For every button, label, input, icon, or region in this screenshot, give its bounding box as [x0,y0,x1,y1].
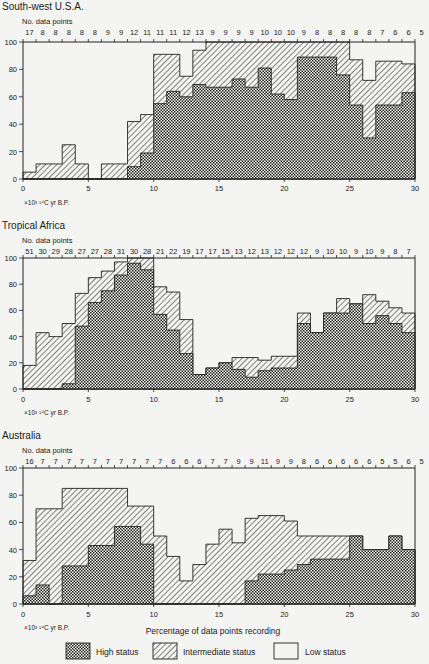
data-point-count: 6 [171,457,175,466]
data-point-count: 21 [156,247,164,256]
y-tick-label: 100 [4,254,17,263]
data-point-count: 5 [380,457,384,466]
data-point-count: 28 [104,247,112,256]
data-point-count: 19 [182,247,190,256]
legend-swatch-low [274,643,298,659]
data-point-count: 9 [237,28,241,37]
data-point-count: 7 [145,457,149,466]
data-point-count: 9 [250,457,254,466]
data-point-count: 7 [106,457,110,466]
y-tick-label: 20 [9,359,17,368]
time-unit-label: ×10³ ¹⁴C yr B.P. [24,199,69,207]
data-point-count: 6 [315,457,319,466]
data-point-count: 15 [221,247,229,256]
data-point-count: 17 [25,28,33,37]
data-point-count: 12 [300,247,308,256]
chart-title: Australia [2,430,41,441]
y-tick-label: 20 [9,573,17,582]
high-status-area [23,263,415,389]
x-tick-label: 15 [215,184,223,193]
data-point-count: 13 [195,28,203,37]
y-tick-label: 80 [9,280,17,289]
counts-label: No. data points [22,236,73,245]
x-axis-title: Percentage of data points recording [146,626,281,636]
data-point-count: 51 [25,247,33,256]
data-point-count: 30 [130,247,138,256]
data-point-count: 6 [406,457,410,466]
x-tick-label: 0 [21,610,25,619]
x-tick-label: 10 [149,610,157,619]
chart-panel-australia: AustraliaNo. data points1677777777776667… [2,430,424,632]
data-point-count: 10 [287,28,295,37]
data-point-count: 7 [93,457,97,466]
x-tick-label: 30 [411,184,419,193]
y-tick-label: 40 [9,333,17,342]
data-point-count: 8 [41,28,45,37]
y-tick-label: 100 [4,464,17,473]
data-point-count: 6 [354,457,358,466]
y-tick-label: 60 [9,518,17,527]
legend-swatch-intermediate [153,643,177,659]
data-point-count: 27 [91,247,99,256]
x-tick-label: 5 [86,610,90,619]
data-point-count: 7 [67,457,71,466]
data-point-count: 6 [328,457,332,466]
data-point-count: 8 [80,28,84,37]
x-tick-label: 0 [21,395,25,404]
data-point-count: 10 [365,247,373,256]
data-point-count: 13 [234,247,242,256]
data-point-count: 9 [223,28,227,37]
x-tick-label: 15 [215,610,223,619]
legend-swatch-high [66,643,90,659]
data-point-count: 7 [406,247,410,256]
data-point-count: 8 [328,28,332,37]
data-point-count: 10 [326,247,334,256]
data-point-count: 7 [158,457,162,466]
data-point-count: 7 [210,457,214,466]
x-tick-label: 0 [21,184,25,193]
data-point-count: 5 [419,457,423,466]
legend-label-low: Low status [305,647,346,657]
data-point-count: 9 [380,247,384,256]
data-point-count: 9 [276,457,280,466]
x-tick-label: 10 [149,395,157,404]
legend-label-high: High status [96,647,139,657]
x-tick-label: 20 [280,395,288,404]
data-point-count: 10 [261,28,269,37]
data-point-count: 6 [341,457,345,466]
data-point-count: 17 [208,247,216,256]
data-point-count: 8 [67,28,71,37]
data-point-count: 29 [51,247,59,256]
time-unit-label: ×10³ ¹⁴C yr B.P. [24,624,69,632]
data-point-count: 9 [250,28,254,37]
y-tick-label: 80 [9,491,17,500]
data-point-count: 8 [302,457,306,466]
data-point-count: 22 [169,247,177,256]
data-point-count: 28 [143,247,151,256]
data-point-count: 9 [210,28,214,37]
data-point-count: 8 [315,28,319,37]
data-point-count: 12 [274,247,282,256]
data-point-count: 17 [195,247,203,256]
x-tick-label: 25 [345,610,353,619]
data-point-count: 16 [25,457,33,466]
data-point-count: 12 [287,247,295,256]
y-tick-label: 80 [9,65,17,74]
data-point-count: 7 [223,457,227,466]
chart-title: South-west U.S.A. [2,1,84,12]
data-point-count: 12 [182,28,190,37]
y-tick-label: 0 [13,385,17,394]
x-tick-label: 25 [345,184,353,193]
data-point-count: 6 [406,28,410,37]
legend: High statusIntermediate statusLow status [66,643,346,659]
time-unit-label: ×10³ ¹⁴C yr B.P. [24,409,69,417]
data-point-count: 10 [274,28,282,37]
counts-label: No. data points [22,17,73,26]
data-point-count: 7 [54,457,58,466]
y-tick-label: 0 [13,175,17,184]
y-tick-label: 60 [9,93,17,102]
y-tick-label: 100 [4,38,17,47]
data-point-count: 10 [339,247,347,256]
figure: South-west U.S.A.No. data points17888889… [0,0,429,664]
data-point-count: 6 [184,457,188,466]
